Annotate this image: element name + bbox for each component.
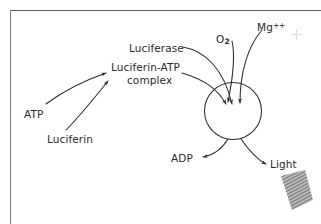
label-adp: ADP [171,152,193,164]
arrow-atp-to-complex [46,73,106,104]
magnesium-symbol: Mg [257,21,273,33]
oxygen-subscript: 2 [224,37,229,46]
arrow-site-to-light [241,139,266,164]
label-luciferase: Luciferase [129,42,184,54]
arrow-site-to-adp [203,139,228,157]
label-complex-line2: complex [127,74,172,86]
arrow-complex-to-site [182,73,226,104]
arrow-mg-to-site [240,30,262,103]
reaction-site-circle [205,83,262,140]
light-emission-icon [281,170,313,210]
figure-canvas: Luciferase Luciferin-ATP complex O2 Mg++… [0,0,321,224]
label-light: Light [270,158,297,170]
label-complex-line1: Luciferin-ATP [111,61,180,73]
label-magnesium: Mg++ [257,20,285,33]
diagram-artwork [0,0,321,224]
label-luciferin: Luciferin [47,133,93,145]
label-atp: ATP [24,108,43,120]
arrow-luciferin-to-complex [66,81,108,130]
label-oxygen: O2 [216,33,230,48]
magnesium-superscript: ++ [273,21,285,30]
